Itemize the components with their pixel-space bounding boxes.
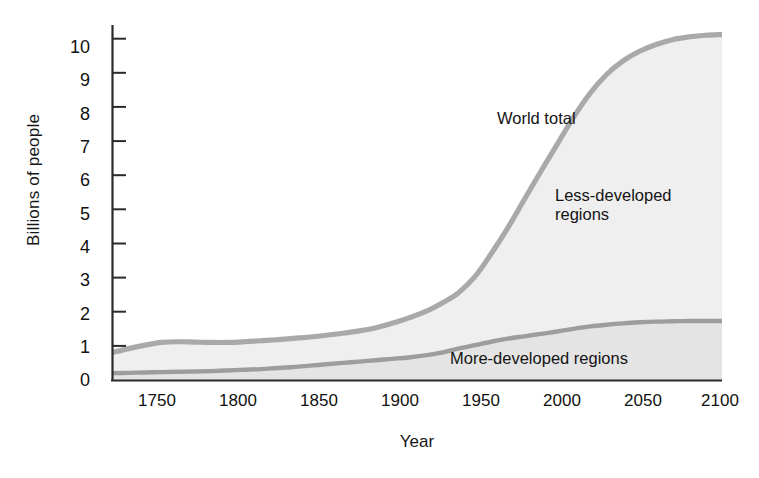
y-axis-ticks bbox=[112, 39, 126, 346]
annotation-less-developed-regions: Less-developed regions bbox=[555, 186, 672, 225]
plot-area bbox=[0, 0, 759, 478]
annotation-more-developed-regions: More-developed regions bbox=[450, 349, 628, 368]
population-growth-chart: Billions of people 10 9 8 7 6 5 4 3 2 1 … bbox=[0, 0, 759, 478]
annotation-world-total: World total bbox=[497, 109, 576, 128]
